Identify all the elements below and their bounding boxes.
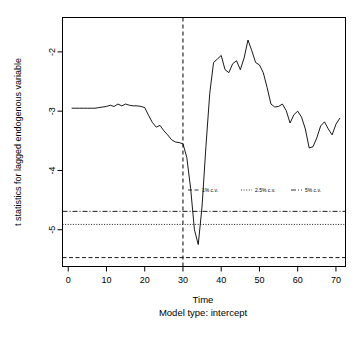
t-statistics-line-chart: -2-3-4-5 010203040506070 1% c.v. 2.5% c.… bbox=[0, 0, 362, 339]
y-tick-label: -4 bbox=[48, 166, 58, 174]
legend-label-1pct: 1% c.v. bbox=[202, 187, 218, 193]
x-axis-sublabel: Model type: intercept bbox=[159, 307, 248, 318]
x-tick-label: 50 bbox=[254, 275, 264, 285]
y-tick-label: -3 bbox=[48, 107, 58, 115]
legend-label-25pct: 2.5% c.v. bbox=[255, 187, 275, 193]
x-tick-label: 70 bbox=[331, 275, 341, 285]
x-axis-label: Time bbox=[193, 294, 214, 305]
legend-label-5pct: 5% c.v. bbox=[305, 187, 321, 193]
x-tick-label: 0 bbox=[66, 275, 71, 285]
y-tick-label: -5 bbox=[48, 226, 58, 234]
x-tick-label: 10 bbox=[101, 275, 111, 285]
x-tick-label: 20 bbox=[140, 275, 150, 285]
y-axis-label: t statistics for lagged endogenous varia… bbox=[13, 58, 23, 226]
chart-container: -2-3-4-5 010203040506070 1% c.v. 2.5% c.… bbox=[0, 0, 362, 339]
x-tick-label: 60 bbox=[293, 275, 303, 285]
y-tick-label: -2 bbox=[48, 48, 58, 56]
x-tick-label: 40 bbox=[216, 275, 226, 285]
x-tick-label: 30 bbox=[178, 275, 188, 285]
